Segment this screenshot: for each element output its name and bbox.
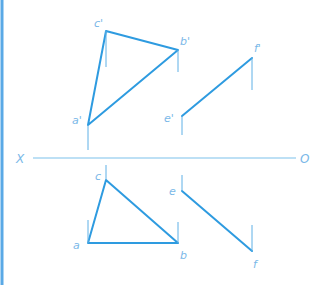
line-top [182,191,252,251]
label-c-prime: c' [94,17,103,30]
triangle-top [88,180,178,243]
axis-label-x: X [15,152,25,166]
label-a-prime: a' [72,114,82,127]
line-front [182,58,252,116]
label-f: f [253,258,259,271]
label-e-prime: e' [164,112,174,125]
projection-diagram: X O c' b' a' f' e' c a b e f [0,0,321,285]
label-e: e [169,185,176,198]
label-b-prime: b' [180,35,190,48]
triangle-front [88,31,178,125]
front-view: c' b' a' f' e' [72,17,261,150]
label-f-prime: f' [254,42,261,55]
axis-label-o: O [300,152,309,166]
label-b: b [180,249,187,262]
label-a: a [73,239,80,252]
label-c: c [95,170,101,183]
top-view: c a b e f [73,165,259,271]
